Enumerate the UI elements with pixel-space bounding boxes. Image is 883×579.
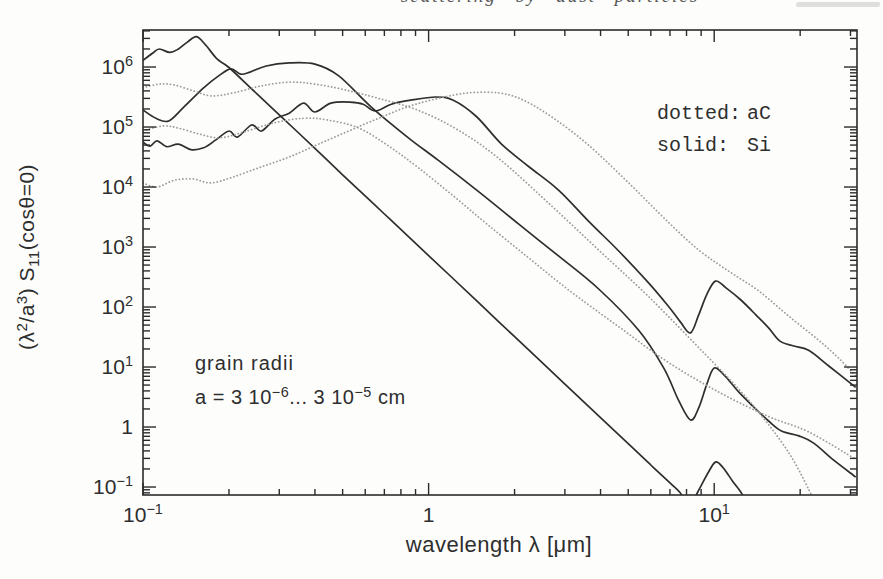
x-axis-title: wavelength λ [μm] (405, 532, 592, 557)
axis-ticks (143, 30, 857, 495)
x-tick-label-1: 1 (423, 503, 435, 526)
y-tick-label-1: 105 (102, 113, 133, 138)
y-tick-label-6: 1 (121, 415, 133, 438)
y-tick-label-3: 103 (102, 233, 133, 258)
y-tick-label-7: 10−1 (93, 473, 133, 498)
legend-value-Si: Si (747, 134, 771, 157)
legend-key-Si: solid: (657, 134, 729, 157)
plot-svg: 10−11101106105104103102101110−1wavelengt… (0, 0, 883, 579)
y-tick-label-2: 104 (102, 173, 133, 198)
x-tick-label-0: 10−1 (123, 501, 163, 526)
series-Si-smallest-a (143, 37, 746, 502)
annotation-radius-range: a = 3 10−6... 3 10−5 cm (195, 384, 406, 408)
series-aC-middle-a (143, 118, 856, 459)
y-tick-label-4: 102 (102, 293, 133, 318)
y-tick-label-5: 101 (102, 353, 133, 378)
plot-frame (143, 30, 857, 495)
legend-key-aC: dotted: (657, 102, 741, 125)
scanned-paper-figure-page: scattering by dust particles 10−11101106… (0, 0, 883, 579)
y-axis-title: (λ2/a3) S11(cosθ=0) (13, 164, 42, 350)
annotation-grain-radii: grain radii (195, 352, 294, 374)
legend-value-aC: aC (747, 102, 771, 125)
y-tick-label-0: 106 (102, 53, 133, 78)
x-tick-label-2: 101 (698, 501, 729, 526)
